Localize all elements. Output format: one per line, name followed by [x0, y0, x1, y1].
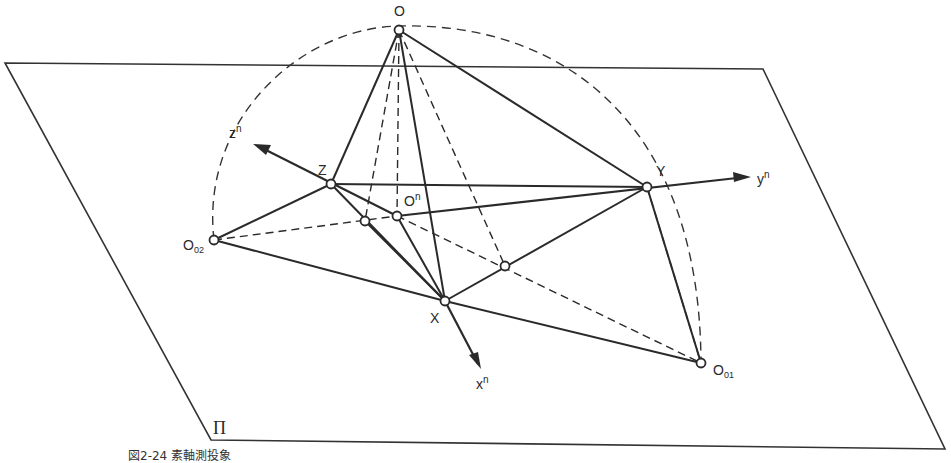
label-O01-sub: 01 [724, 370, 734, 380]
point-O [395, 26, 404, 35]
point-Z [327, 180, 336, 189]
point-X [441, 297, 450, 306]
label-xn-base: x [476, 376, 483, 392]
label-O02-base: O [183, 237, 194, 253]
label-On-base: O [404, 193, 415, 209]
label-Y: Y [656, 163, 666, 179]
label-yn: yn [757, 169, 770, 187]
projection-plane [5, 63, 945, 449]
point-P1 [361, 217, 370, 226]
label-O: O [394, 3, 405, 19]
label-X: X [430, 310, 440, 326]
label-xn: xn [476, 374, 489, 392]
label-O01: O01 [713, 362, 734, 380]
point-Y [643, 183, 652, 192]
yn-arrowhead [733, 172, 751, 182]
label-yn-base: y [757, 171, 764, 187]
dashed-arc [213, 26, 701, 363]
solid-lines [214, 30, 701, 363]
zn-arrowhead [253, 144, 271, 155]
point-O01 [697, 359, 706, 368]
label-O02: O02 [183, 237, 204, 255]
label-zn: zn [229, 123, 242, 141]
label-O02-sub: 02 [194, 245, 204, 255]
point-P2 [501, 262, 510, 271]
label-On: On [404, 191, 420, 209]
label-zn-sup: n [236, 123, 242, 134]
arrowheads [253, 144, 751, 369]
figure-caption: 図2-24 素軸測投象 [128, 446, 231, 463]
point-O02 [210, 236, 219, 245]
label-zn-base: z [229, 125, 236, 141]
point-On [393, 212, 402, 221]
label-xn-sup: n [483, 374, 489, 385]
label-Z: Z [318, 162, 327, 178]
plane-label: Π [213, 418, 226, 438]
label-O01-base: O [713, 362, 724, 378]
xn-arrowhead [469, 352, 481, 369]
label-On-sup: n [415, 191, 421, 202]
dashed-lines [214, 30, 701, 363]
label-yn-sup: n [764, 169, 770, 180]
